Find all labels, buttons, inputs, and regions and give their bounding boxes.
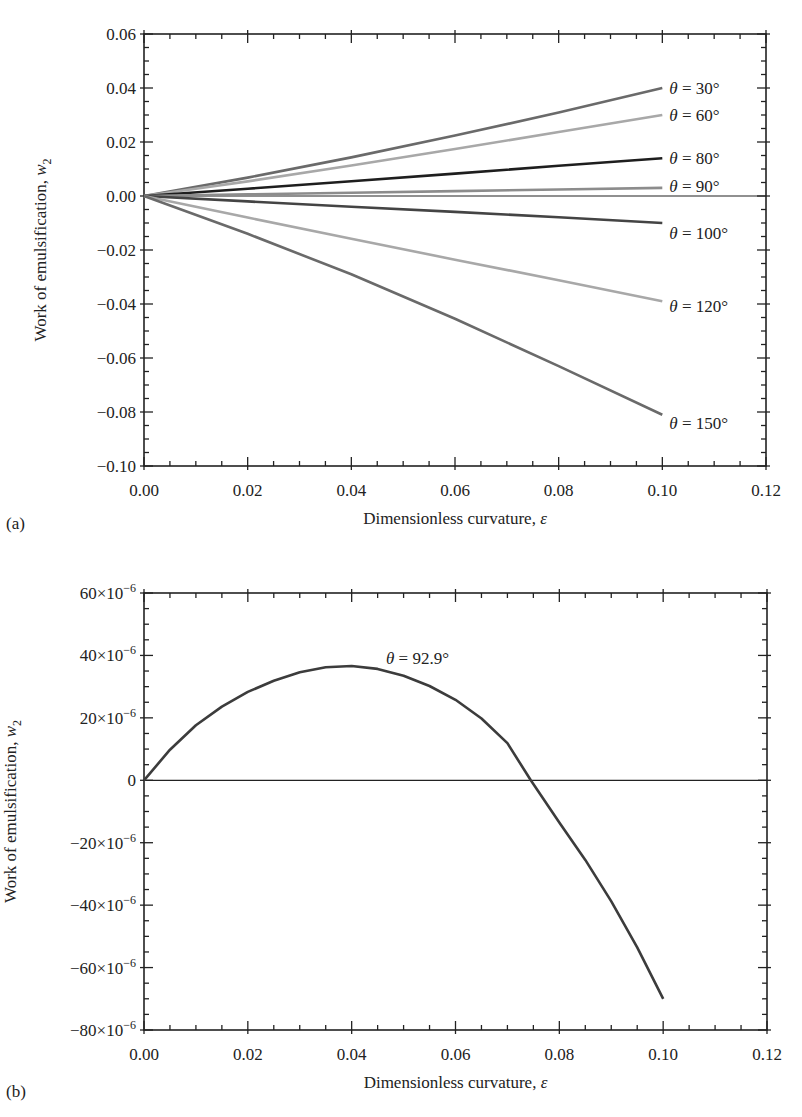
y-tick-label: 0.00	[106, 187, 136, 206]
y-axis-label: Work of emulsification, w2	[1, 720, 24, 903]
y-tick-label: −0.04	[97, 295, 137, 314]
y-tick-label: 0.06	[106, 25, 136, 44]
x-tick-label: 0.00	[129, 1045, 159, 1064]
y-tick-label: −80×10−6	[70, 1018, 136, 1040]
panel-label-a: (a)	[6, 514, 25, 534]
figure: 0.000.020.040.060.080.100.120.060.040.02…	[0, 0, 802, 1117]
x-tick-label: 0.06	[441, 1045, 471, 1064]
y-tick-label: −20×10−6	[70, 831, 136, 853]
x-tick-label: 0.04	[337, 1045, 367, 1064]
series-line	[144, 196, 662, 415]
chart-panel-b: 0.000.020.040.060.080.100.1260×10−640×10…	[0, 560, 802, 1117]
y-axis-label: Work of emulsification, w2	[31, 158, 54, 341]
y-tick-label: −60×10−6	[70, 956, 136, 978]
y-tick-label: 0.02	[106, 133, 136, 152]
series-line	[144, 196, 662, 223]
series-label: θ = 80°	[669, 149, 719, 168]
x-axis-label: Dimensionless curvature, ε	[364, 1073, 548, 1092]
x-tick-label: 0.02	[233, 481, 263, 500]
plot-frame	[144, 34, 766, 466]
series-line	[144, 115, 662, 196]
y-tick-label: −0.10	[97, 457, 136, 476]
plot-area: 0.000.020.040.060.080.100.120.060.040.02…	[97, 25, 781, 500]
y-tick-label: −40×10−6	[70, 893, 136, 915]
plot-frame	[144, 593, 767, 1030]
chart-panel-a: 0.000.020.040.060.080.100.120.060.040.02…	[0, 0, 802, 560]
x-axis-label: Dimensionless curvature, ε	[363, 509, 547, 528]
series-label: θ = 100°	[669, 224, 728, 243]
series-line	[144, 188, 662, 196]
y-tick-label: −0.06	[97, 349, 136, 368]
x-tick-label: 0.04	[336, 481, 366, 500]
plot-area: 0.000.020.040.060.080.100.1260×10−640×10…	[70, 581, 782, 1064]
series-label: θ = 30°	[669, 79, 719, 98]
x-tick-label: 0.12	[752, 1045, 782, 1064]
y-tick-label: 0	[128, 771, 137, 790]
x-tick-label: 0.10	[647, 481, 677, 500]
series-line	[144, 88, 662, 196]
y-tick-label: −0.02	[97, 241, 136, 260]
x-tick-label: 0.12	[751, 481, 781, 500]
y-tick-label: 0.04	[106, 79, 136, 98]
series-label: θ = 120°	[669, 297, 728, 316]
x-tick-label: 0.08	[544, 1045, 574, 1064]
series-label: θ = 60°	[669, 106, 719, 125]
curve-annotation: θ = 92.9°	[386, 649, 449, 668]
panel-label-b: (b)	[6, 1082, 26, 1102]
series-label: θ = 90°	[669, 177, 719, 196]
y-tick-label: 60×10−6	[80, 581, 136, 603]
x-tick-label: 0.00	[129, 481, 159, 500]
x-tick-label: 0.02	[233, 1045, 263, 1064]
x-tick-label: 0.08	[544, 481, 574, 500]
x-tick-label: 0.06	[440, 481, 470, 500]
series-line	[144, 666, 663, 999]
y-tick-label: 20×10−6	[80, 706, 136, 728]
y-tick-label: −0.08	[97, 403, 136, 422]
series-label: θ = 150°	[669, 414, 728, 433]
series-line	[144, 196, 662, 301]
y-tick-label: 40×10−6	[80, 643, 136, 665]
x-tick-label: 0.10	[648, 1045, 678, 1064]
